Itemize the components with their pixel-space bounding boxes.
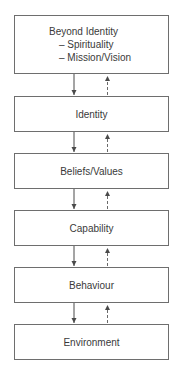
connector-3	[72, 189, 111, 209]
connector-1	[72, 74, 111, 95]
connector-5	[72, 303, 111, 323]
level-label: Environment	[63, 337, 119, 348]
level-beliefs-values: Beliefs/Values	[14, 153, 169, 189]
level-capability: Capability	[14, 210, 169, 246]
level-behaviour: Behaviour	[14, 267, 169, 303]
sub-item-mission-vision: – Mission/Vision	[49, 51, 131, 64]
level-identity: Identity	[14, 96, 169, 132]
connector-2	[72, 132, 111, 152]
level-label: Capability	[70, 223, 114, 234]
sub-item-spirituality: – Spirituality	[49, 38, 113, 51]
level-beyond-identity: Beyond Identity – Spirituality – Mission…	[14, 15, 169, 74]
level-label: Behaviour	[69, 280, 114, 291]
connector-4	[72, 246, 111, 266]
level-label: Beyond Identity	[49, 25, 118, 38]
level-label: Identity	[75, 109, 107, 120]
level-label: Beliefs/Values	[60, 166, 123, 177]
level-environment: Environment	[14, 324, 169, 360]
